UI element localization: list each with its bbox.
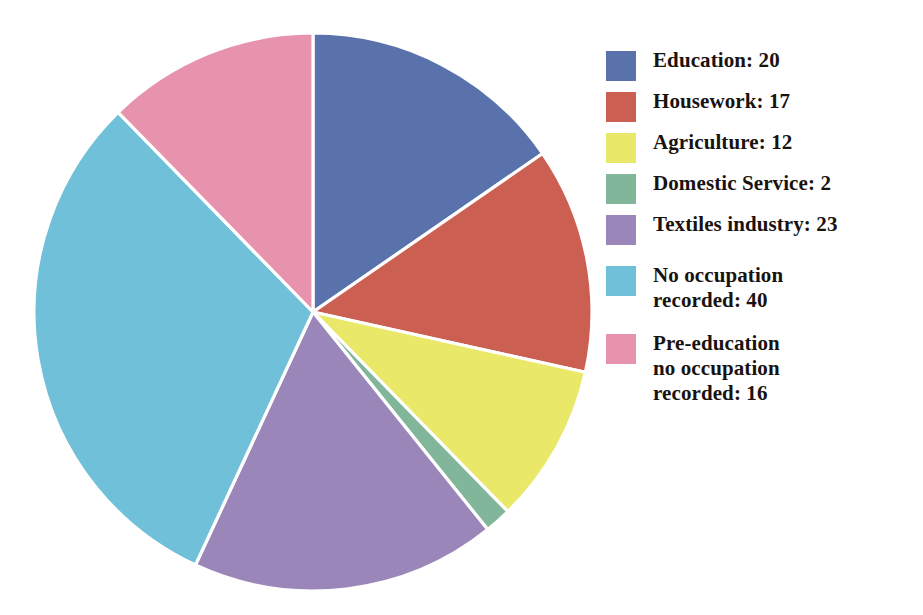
pie-slices-group [34,33,592,591]
chart-legend: Education: 20 Housework: 17 Agriculture:… [606,48,923,414]
legend-item-pre-education-no-occupation-recorded[interactable]: Pre-education no occupation recorded: 16 [606,331,923,406]
legend-label-domestic-service: Domestic Service: 2 [653,171,831,196]
legend-label-agriculture: Agriculture: 12 [653,130,792,155]
legend-swatch-textiles-industry [606,215,636,245]
pie-chart-page: Education: 20 Housework: 17 Agriculture:… [0,0,923,615]
pie-chart-area [0,0,620,615]
legend-label-education: Education: 20 [653,48,780,73]
legend-swatch-pre-education-no-occupation-recorded [606,334,636,364]
legend-item-housework[interactable]: Housework: 17 [606,89,923,122]
legend-item-education[interactable]: Education: 20 [606,48,923,81]
legend-item-domestic-service[interactable]: Domestic Service: 2 [606,171,923,204]
legend-item-no-occupation-recorded[interactable]: No occupation recorded: 40 [606,263,923,313]
legend-label-pre-education-no-occupation-recorded: Pre-education no occupation recorded: 16 [653,331,780,406]
legend-item-agriculture[interactable]: Agriculture: 12 [606,130,923,163]
legend-label-no-occupation-recorded: No occupation recorded: 40 [653,263,783,313]
legend-swatch-domestic-service [606,174,636,204]
legend-swatch-education [606,51,636,81]
legend-swatch-housework [606,92,636,122]
legend-label-textiles-industry: Textiles industry: 23 [653,212,838,237]
pie-chart-svg [0,0,620,615]
legend-swatch-agriculture [606,133,636,163]
legend-item-textiles-industry[interactable]: Textiles industry: 23 [606,212,923,245]
legend-label-housework: Housework: 17 [653,89,790,114]
legend-swatch-no-occupation-recorded [606,266,636,296]
